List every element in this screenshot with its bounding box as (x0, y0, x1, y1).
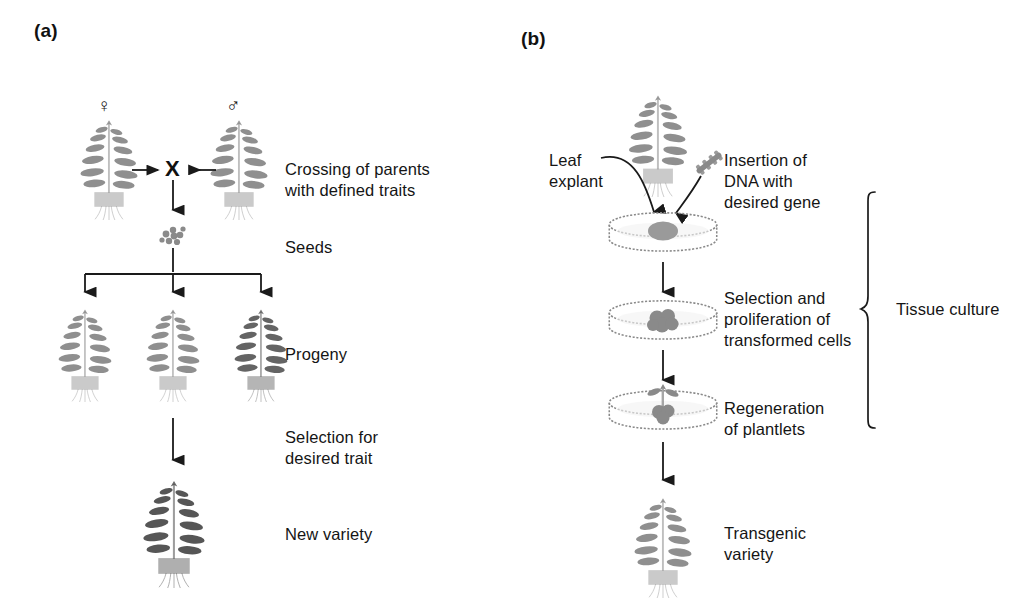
female-symbol: ♀ (97, 96, 111, 115)
dna-construct-icon (676, 149, 724, 213)
petri-dish-plantlet (609, 384, 716, 429)
progeny-distributor (85, 274, 261, 292)
seeds-glyph (159, 226, 185, 245)
diagram-artwork (0, 0, 1036, 616)
caption-tissue-culture: Tissue culture (896, 299, 1000, 320)
caption-transgenic-variety: Transgenic variety (724, 523, 806, 565)
figure-canvas: (a) ♀ ♂ X Crossing of parents with defin… (0, 0, 1036, 616)
caption-selection: Selection for desired trait (285, 427, 378, 469)
caption-seeds: Seeds (285, 237, 332, 258)
panel-b-label: (b) (521, 28, 546, 50)
caption-progeny: Progeny (285, 344, 347, 365)
caption-leaf-explant: Leaf explant (549, 150, 603, 192)
caption-dna-insertion: Insertion of DNA with desired gene (724, 150, 821, 213)
leaf-explant-arrow (601, 157, 654, 212)
transgenic-variety-plant (634, 498, 692, 598)
parent-plant-male (210, 120, 268, 220)
caption-crossing: Crossing of parents with defined traits (285, 159, 430, 201)
parent-plant-female (80, 120, 138, 220)
petri-dish-callus (609, 301, 716, 339)
donor-plant (628, 95, 687, 197)
progeny-plant-3 (234, 310, 288, 402)
progeny-plant-1 (58, 310, 112, 402)
tissue-culture-brace (861, 192, 875, 428)
caption-selection-proliferation: Selection and proliferation of transform… (724, 288, 851, 351)
male-symbol: ♂ (226, 96, 240, 115)
caption-regeneration: Regeneration of plantlets (724, 398, 824, 440)
panel-a-label: (a) (34, 20, 58, 42)
cross-symbol: X (165, 158, 180, 180)
petri-dish-explant (609, 213, 716, 251)
caption-new-variety: New variety (285, 524, 372, 545)
new-variety-plant (143, 481, 205, 588)
progeny-plant-2 (146, 310, 200, 402)
